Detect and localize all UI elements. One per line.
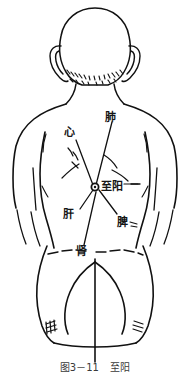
leader-line-liver [80,190,93,209]
label-zhiyang-acupoint: 至阳 [101,181,123,192]
left-buttock-hatching [46,320,57,334]
buttocks-outline [37,246,154,362]
figure-container: 肺 心 至阳 肝 脾 肾 图3－11 至阳 [0,0,190,377]
right-arm-contour [150,168,173,246]
label-heart: 心 [64,127,75,138]
anatomy-line-drawing [0,0,190,377]
label-liver: 肝 [63,209,74,220]
leader-line-heart [76,140,93,185]
lateral-muscle-marks [42,134,148,227]
leader-line-spleen [99,190,117,214]
label-lung: 肺 [105,112,116,123]
left-ear [50,46,68,82]
torso-outline [13,104,177,248]
leader-line-lung [96,122,112,185]
left-arm-contour [17,168,40,246]
right-ear [122,46,140,82]
label-kidney: 肾 [76,246,87,257]
label-spleen: 脾 [117,217,128,228]
acupoint-dot[interactable] [91,183,98,190]
left-scapula-shading [62,148,79,178]
iliac-crest-line [48,250,143,255]
neck-outline [66,84,124,104]
figure-caption: 图3－11 至阳 [0,362,190,374]
caption-figure-name: 至阳 [110,362,130,373]
right-buttock-hatching [133,321,143,332]
caption-figure-number: 图3－11 [60,362,99,373]
